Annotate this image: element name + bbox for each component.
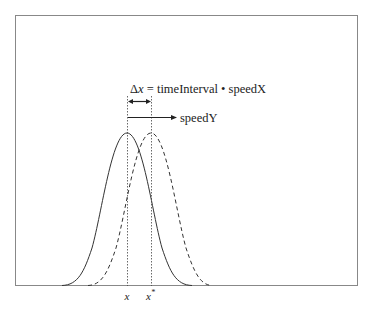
x-star-axis-label: x*	[145, 288, 155, 302]
diagram-canvas: Δx = timeInterval • speedX speedY x x*	[0, 0, 367, 309]
delta-x-arrow-icon	[128, 99, 151, 104]
delta-x-equation: Δx = timeInterval • speedX	[130, 82, 266, 96]
speed-y-label: speedY	[180, 111, 218, 125]
solid-gaussian-curve	[62, 133, 192, 286]
speed-arrow-icon	[128, 115, 177, 120]
x-axis-label: x	[124, 290, 130, 302]
frame-border	[16, 16, 358, 286]
dashed-gaussian-curve	[88, 133, 212, 286]
